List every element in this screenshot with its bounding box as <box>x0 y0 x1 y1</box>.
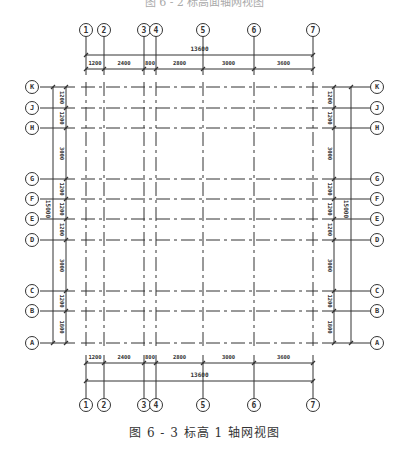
dimension-top-segment: 800 <box>145 60 155 66</box>
axis-label-top: 1 <box>84 26 89 35</box>
dimension-left-total: 15000 <box>45 200 52 218</box>
dimension-top-segment: 3600 <box>277 60 290 66</box>
axis-label-right: G <box>375 175 379 183</box>
dimension-bottom-segment: 800 <box>145 354 155 360</box>
axis-label-right: D <box>375 236 379 244</box>
dimension-right-segment: 1200 <box>326 202 332 215</box>
dimension-bottom-segment: 3600 <box>277 354 290 360</box>
dimension-top-segment: 2400 <box>117 60 130 66</box>
axis-label-left: G <box>30 175 34 183</box>
axis-label-right: B <box>375 307 379 315</box>
dimension-bottom-segment: 1200 <box>88 354 101 360</box>
axis-label-left: E <box>30 215 34 223</box>
dimension-right-segment: 3000 <box>326 259 332 272</box>
axis-label-right: J <box>375 104 379 112</box>
axis-label-left: B <box>30 307 34 315</box>
dimension-left-segment: 1200 <box>58 111 64 124</box>
axis-label-left: D <box>30 236 34 244</box>
dimension-right-segment: 1800 <box>326 320 332 333</box>
axis-label-right: E <box>375 215 379 223</box>
dimension-right-segment: 1200 <box>326 223 332 236</box>
dimension-right-total: 15000 <box>343 200 350 218</box>
dimension-top-segment: 2800 <box>173 60 186 66</box>
dimension-left-segment: 1800 <box>58 320 64 333</box>
axis-label-bottom: 4 <box>154 401 159 410</box>
axis-label-right: C <box>375 287 379 295</box>
axis-label-top: 2 <box>102 26 107 35</box>
axis-label-bottom: 7 <box>311 401 316 410</box>
dimension-left-segment: 1200 <box>58 182 64 195</box>
dimension-right-segment: 1200 <box>326 91 332 104</box>
axis-label-top: 4 <box>154 26 159 35</box>
dimension-top-segment: 1200 <box>88 60 101 66</box>
dimension-bottom-segment: 2400 <box>117 354 130 360</box>
dimension-right-segment: 3000 <box>326 147 332 160</box>
axis-label-bottom: 1 <box>84 401 89 410</box>
axis-label-bottom: 6 <box>252 401 257 410</box>
dimension-top-segment: 3000 <box>222 60 235 66</box>
dimension-left-segment: 1200 <box>58 223 64 236</box>
dimension-left-segment: 1200 <box>58 91 64 104</box>
dimension-bottom-segment: 3000 <box>222 354 235 360</box>
dimension-left-segment: 3000 <box>58 259 64 272</box>
dimension-right-segment: 1200 <box>326 111 332 124</box>
axis-label-top: 7 <box>311 26 316 35</box>
axis-label-top: 3 <box>142 26 147 35</box>
axis-label-left: F <box>30 195 34 203</box>
axis-label-bottom: 3 <box>142 401 147 410</box>
dimension-left-segment: 1200 <box>58 202 64 215</box>
dimension-left-segment: 1200 <box>58 294 64 307</box>
axis-label-right: F <box>375 195 379 203</box>
axis-label-left: J <box>30 104 34 112</box>
axis-label-top: 6 <box>252 26 257 35</box>
axis-label-bottom: 5 <box>201 401 206 410</box>
dimension-top-total: 13600 <box>190 45 208 52</box>
dimension-left-segment: 3000 <box>58 147 64 160</box>
dimension-right-segment: 1200 <box>326 294 332 307</box>
axis-grid-drawing: 11223344556677KKJJHHGGFFEEDDCCBBAA136001… <box>0 0 409 449</box>
figure-caption: 图 6 - 3 标高 1 轴网视图 <box>0 423 409 440</box>
axis-label-left: C <box>30 287 34 295</box>
dimension-bottom-segment: 2800 <box>173 354 186 360</box>
dimension-right-segment: 1200 <box>326 182 332 195</box>
axis-label-right: H <box>375 124 379 132</box>
axis-label-top: 5 <box>201 26 206 35</box>
dimension-bottom-total: 13600 <box>190 371 208 378</box>
axis-label-bottom: 2 <box>102 401 107 410</box>
axis-label-left: H <box>30 124 34 132</box>
